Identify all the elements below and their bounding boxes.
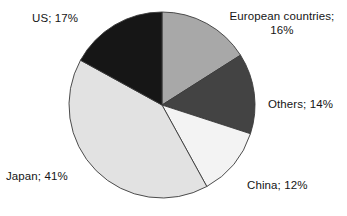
slice-label-us: US; 17% <box>32 11 78 25</box>
slice-label-china: China; 12% <box>247 178 307 192</box>
slice-label-european-countries: European countries; 16% <box>222 9 342 37</box>
slice-label-japan: Japan; 41% <box>6 169 68 183</box>
pie-chart-figure: European countries; 16% Others; 14% Chin… <box>0 0 347 216</box>
pie-slice-group <box>69 12 255 198</box>
slice-label-others: Others; 14% <box>268 97 333 111</box>
slice-label-european-countries-line1: European countries; <box>230 10 335 22</box>
slice-label-european-countries-line2: 16% <box>270 24 293 36</box>
